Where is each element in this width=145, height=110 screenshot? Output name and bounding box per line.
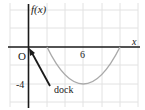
dock-label: dock bbox=[54, 85, 73, 95]
x-axis-label: x bbox=[132, 37, 136, 47]
x-tick-label-6: 6 bbox=[80, 50, 85, 60]
y-tick-label-neg4: -4 bbox=[16, 80, 24, 90]
y-axis-label: f(x) bbox=[31, 4, 46, 15]
origin-label: O bbox=[18, 51, 26, 62]
arrowhead-icon bbox=[29, 48, 35, 56]
